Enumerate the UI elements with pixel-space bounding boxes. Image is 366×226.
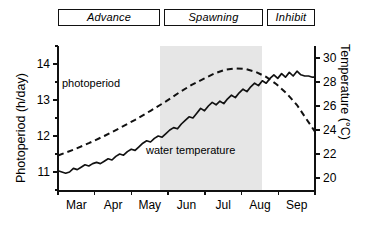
right-tick-mark <box>315 105 320 107</box>
phase-label-spawning: Spawning <box>189 12 239 23</box>
right-tick-label: 24 <box>323 124 336 136</box>
right-tick-label: 26 <box>323 100 336 112</box>
left-tick-minor <box>55 81 59 83</box>
x-tick-mark <box>57 190 59 195</box>
left-tick-minor <box>55 153 59 155</box>
left-tick-mark <box>53 99 58 101</box>
x-tick-mark <box>204 190 206 195</box>
left-tick-mark <box>53 63 58 65</box>
photoperiod-annotation: photoperiod <box>62 78 120 89</box>
phase-box-advance: Advance <box>58 9 160 26</box>
phase-box-inhibit: Inhibit <box>267 9 315 26</box>
phase-label-inhibit: Inhibit <box>276 12 307 23</box>
phase-banner: Advance Spawning Inhibit <box>0 0 366 32</box>
left-tick-mark <box>53 135 58 137</box>
right-tick-mark <box>315 57 320 59</box>
left-tick-mark <box>53 171 58 173</box>
x-tick-mark <box>167 190 169 195</box>
water-temperature-annotation: water temperature <box>146 145 235 156</box>
right-tick-mark <box>315 177 320 179</box>
left-tick-label: 14 <box>18 58 50 70</box>
x-tick-label: Sep <box>275 199 319 211</box>
right-tick-label: 22 <box>323 148 336 160</box>
right-tick-label: 28 <box>323 76 336 88</box>
x-tick-mark <box>94 190 96 195</box>
x-tick-mark <box>241 190 243 195</box>
x-tick-mark <box>314 190 316 195</box>
right-tick-mark <box>315 129 320 131</box>
phase-box-spawning: Spawning <box>164 9 263 26</box>
right-axis-line <box>314 46 316 190</box>
x-tick-mark <box>131 190 133 195</box>
right-tick-mark <box>315 153 320 155</box>
left-tick-minor <box>55 45 59 47</box>
x-axis-line <box>58 190 315 192</box>
left-tick-minor <box>55 117 59 119</box>
phase-label-advance: Advance <box>87 12 131 23</box>
left-axis-title: Photoperiod (h/day) <box>14 73 28 183</box>
right-tick-label: 20 <box>323 172 336 184</box>
right-axis-title: Temperature (°C) <box>338 44 352 140</box>
right-tick-label: 30 <box>323 52 336 64</box>
right-tick-mark <box>315 81 320 83</box>
plot-area <box>58 46 315 190</box>
x-tick-mark <box>278 190 280 195</box>
chart-figure: Advance Spawning Inhibit 11121314 202224… <box>0 0 366 226</box>
series-curves <box>58 46 315 190</box>
